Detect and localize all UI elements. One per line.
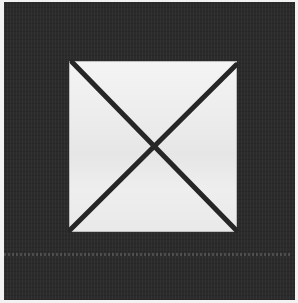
x-cross-icon — [0, 0, 298, 303]
